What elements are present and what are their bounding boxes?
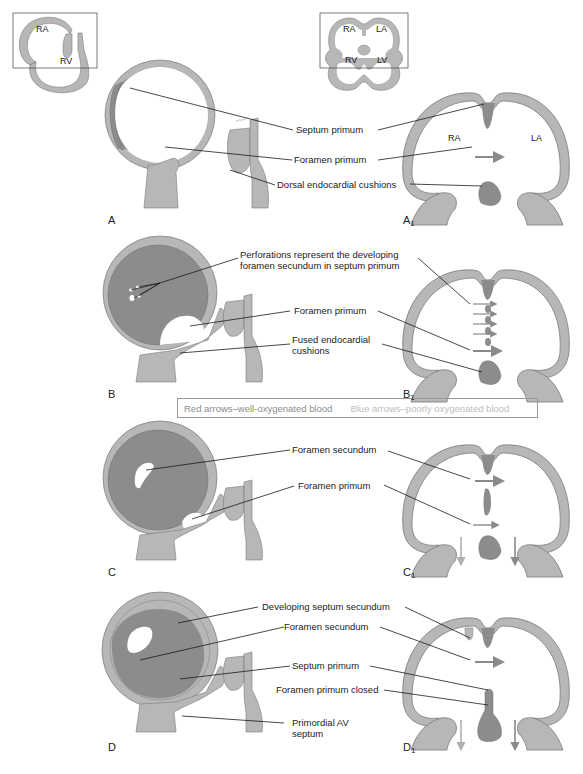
label-b-foramen-primum: Foramen primum bbox=[294, 305, 366, 316]
label-d-primordial-av-line1: Primordial AV bbox=[292, 717, 349, 728]
label-a-dorsal-cushions: Dorsal endocardial cushions bbox=[277, 179, 396, 190]
inset-left-rv-label: RV bbox=[60, 56, 72, 66]
inset-sagittal bbox=[13, 13, 97, 93]
panel-a1-drawing bbox=[403, 93, 570, 225]
panel-d-drawing bbox=[102, 592, 290, 732]
oxygenation-legend: Red arrows–well-oxygenated blood Blue ar… bbox=[177, 398, 538, 418]
panel-d1-drawing bbox=[403, 618, 570, 750]
panel-label-b: B bbox=[108, 388, 115, 400]
panel-label-b1: B1 bbox=[403, 388, 415, 402]
label-a-foramen-primum: Foramen primum bbox=[294, 154, 366, 165]
label-c-foramen-secundum: Foramen secundum bbox=[292, 444, 376, 455]
inset-left-ra-label: RA bbox=[36, 24, 49, 34]
a1-la-label: LA bbox=[531, 133, 542, 143]
legend-blue-arrows: Blue arrows–poorly oxygenated blood bbox=[350, 403, 509, 414]
label-b-perforations-line1: Perforations represent the developing bbox=[240, 249, 398, 260]
label-d-primordial-av-line2: septum bbox=[292, 728, 323, 739]
panel-c-drawing bbox=[103, 421, 294, 560]
panel-label-c: C bbox=[108, 566, 116, 578]
label-b-fused-line1: Fused endocardial bbox=[292, 334, 370, 345]
label-c-foramen-primum: Foramen primum bbox=[298, 480, 370, 491]
legend-red-arrows: Red arrows–well-oxygenated blood bbox=[184, 403, 332, 414]
inset-right-lv-label: LV bbox=[377, 55, 387, 65]
panel-label-d: D bbox=[108, 741, 116, 753]
inset-right-rv-label: RV bbox=[345, 55, 357, 65]
label-d-foramen-primum-closed: Foramen primum closed bbox=[276, 684, 378, 695]
panel-b1-drawing bbox=[403, 270, 570, 402]
label-d-developing-septum-secundum: Developing septum secundum bbox=[262, 601, 390, 612]
panel-a-drawing bbox=[105, 60, 293, 208]
panel-label-d1: D1 bbox=[403, 741, 415, 755]
label-d-septum-primum: Septum primum bbox=[292, 660, 359, 671]
panel-label-a1: A1 bbox=[403, 214, 415, 228]
a1-ra-label: RA bbox=[448, 133, 461, 143]
label-a-septum-primum: Septum primum bbox=[296, 124, 363, 135]
inset-coronal bbox=[320, 13, 408, 90]
inset-right-la-label: LA bbox=[376, 24, 387, 34]
label-b-fused-line2: cushions bbox=[292, 345, 330, 356]
label-b-perforations-line2: foramen secundum in septum primum bbox=[240, 260, 399, 271]
label-d-foramen-secundum: Foramen secundum bbox=[284, 621, 368, 632]
panel-label-a: A bbox=[108, 214, 115, 226]
embryonic-heart-septation-figure bbox=[0, 0, 583, 774]
inset-right-ra-label: RA bbox=[343, 24, 356, 34]
panel-label-c1: C1 bbox=[403, 566, 415, 580]
